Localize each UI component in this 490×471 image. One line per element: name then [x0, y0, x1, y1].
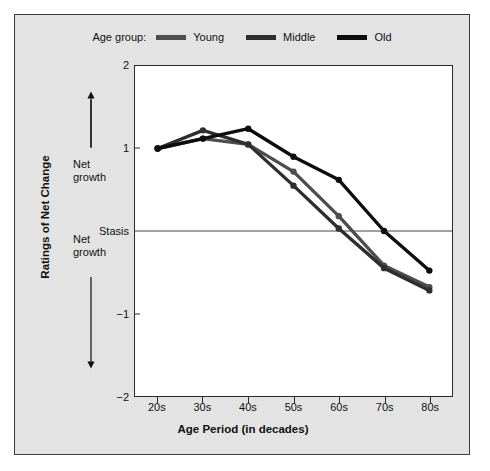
y-tick-mark [134, 314, 140, 315]
y-tick-label: 2 [123, 59, 129, 71]
data-point [336, 213, 342, 219]
x-axis-tick-labels: 20s30s40s50s60s70s80s [134, 401, 453, 419]
legend-swatch-young [156, 35, 186, 40]
data-point [290, 182, 296, 188]
legend-label-middle: Middle [283, 31, 315, 43]
legend-swatch-old [337, 35, 367, 40]
x-tick-mark [248, 397, 249, 403]
y-axis-title: Ratings of Net Change [39, 117, 51, 317]
legend-item-middle: Middle [246, 31, 315, 43]
legend-item-young: Young [156, 31, 224, 43]
x-tick-mark [385, 397, 386, 403]
legend-title: Age group: [92, 31, 146, 43]
x-axis-title: Age Period (in decades) [15, 423, 471, 435]
legend-label-young: Young [193, 31, 224, 43]
data-point [426, 267, 432, 273]
legend-swatch-middle [246, 35, 276, 40]
data-point [154, 145, 160, 151]
x-tick-mark [202, 397, 203, 403]
data-point [245, 126, 251, 132]
data-point [426, 287, 432, 293]
series-line-young [158, 139, 430, 288]
y-axis-tick-labels: 21Stasis−1−2 [71, 65, 129, 397]
x-tick-mark [339, 397, 340, 403]
series-line-old [158, 129, 430, 271]
chart-canvas [135, 66, 452, 396]
data-point [381, 265, 387, 271]
data-point [290, 154, 296, 160]
legend-label-old: Old [374, 31, 391, 43]
zone-label-net-growth-upper: Net growth [73, 158, 106, 184]
data-point [200, 135, 206, 141]
data-point [381, 228, 387, 234]
legend-item-old: Old [337, 31, 391, 43]
figure-panel: Age group: Young Middle Old 21Stasis−1−2… [14, 14, 470, 455]
data-point [290, 168, 296, 174]
data-point [245, 141, 251, 147]
plot-area [134, 65, 453, 397]
data-point [200, 127, 206, 133]
y-tick-mark [134, 148, 140, 149]
y-tick-label: 1 [123, 142, 129, 154]
x-tick-mark [157, 397, 158, 403]
y-tick-label: −1 [116, 308, 129, 320]
x-tick-mark [430, 397, 431, 403]
zone-label-net-growth-lower: Net growth [73, 233, 106, 259]
y-tick-label: −2 [116, 391, 129, 403]
data-point [336, 177, 342, 183]
x-tick-mark [294, 397, 295, 403]
chart-legend: Age group: Young Middle Old [15, 31, 469, 43]
data-point [336, 225, 342, 231]
